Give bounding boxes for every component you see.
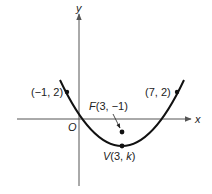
origin-label: O — [68, 121, 77, 133]
right-point-label: (7, 2) — [145, 86, 171, 98]
vertex-dot — [120, 144, 125, 149]
vertex-coords-post: ) — [132, 150, 136, 162]
focus-pointer-arrow — [113, 114, 120, 128]
left-point-dot — [65, 90, 69, 94]
vertex-label: V(3, k) — [103, 150, 135, 162]
parabola-diagram: y x O (−1, 2) (7, 2) F(3, −1) V(3, k) — [0, 0, 212, 194]
right-point-dot — [175, 90, 179, 94]
focus-coords: (3, −1) — [96, 100, 128, 112]
focus-label: F(3, −1) — [89, 100, 128, 112]
left-point-label: (−1, 2) — [31, 86, 63, 98]
vertex-coords-pre: (3, — [110, 150, 126, 162]
focus-dot — [120, 130, 125, 135]
x-axis-label: x — [194, 113, 201, 125]
y-axis-label: y — [75, 2, 83, 14]
